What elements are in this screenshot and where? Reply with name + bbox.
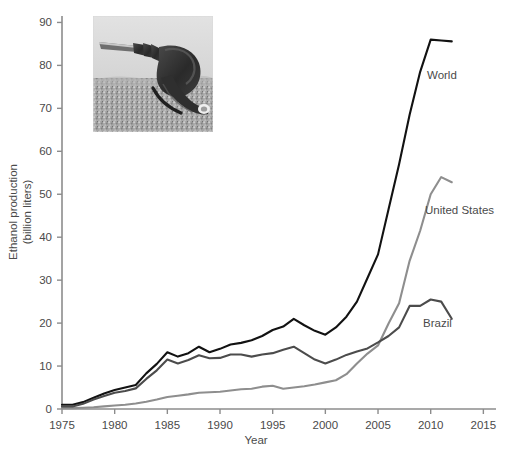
series-label-brazil: Brazil xyxy=(423,317,452,329)
photo-svg xyxy=(93,16,213,132)
x-tick-label: 1980 xyxy=(102,419,128,431)
y-tick-label: 10 xyxy=(39,360,52,372)
series-label-world: World xyxy=(427,69,457,81)
x-tick-label: 1995 xyxy=(260,419,286,431)
x-tick-label: 1975 xyxy=(49,419,75,431)
y-tick-label: 90 xyxy=(39,16,52,28)
y-axis-title-line2: (billion liters) xyxy=(21,180,33,245)
fuel-nozzle-on-grain-photo xyxy=(93,16,213,132)
y-tick-label: 70 xyxy=(39,102,52,114)
x-axis-ticks: 197519801985199019952000200520102015 xyxy=(49,409,496,431)
x-tick-label: 1990 xyxy=(207,419,233,431)
y-tick-label: 50 xyxy=(39,188,52,200)
x-axis-title: Year xyxy=(244,434,267,446)
x-tick-label: 2005 xyxy=(365,419,391,431)
x-tick-label: 2000 xyxy=(313,419,339,431)
y-tick-label: 80 xyxy=(39,59,52,71)
y-tick-label: 30 xyxy=(39,274,52,286)
series-label-united-states: United States xyxy=(425,204,494,216)
chart-plot-area: 0102030405060708090 19751980198519901995… xyxy=(0,0,508,456)
y-tick-label: 40 xyxy=(39,231,52,243)
y-tick-label: 20 xyxy=(39,317,52,329)
y-axis-title-line1: Ethanol production xyxy=(7,164,19,260)
y-axis-ticks: 0102030405060708090 xyxy=(39,16,62,415)
ethanol-production-chart-figure: 0102030405060708090 19751980198519901995… xyxy=(0,0,508,456)
series-line-united-states xyxy=(62,177,452,408)
x-tick-label: 1985 xyxy=(155,419,181,431)
x-tick-label: 2015 xyxy=(471,419,497,431)
x-tick-label: 2010 xyxy=(418,419,444,431)
y-tick-label: 0 xyxy=(46,403,52,415)
y-tick-label: 60 xyxy=(39,145,52,157)
